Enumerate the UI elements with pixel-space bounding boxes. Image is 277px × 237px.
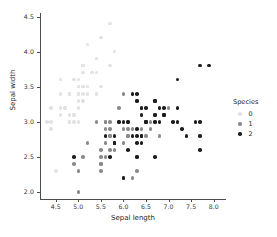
data-point bbox=[158, 134, 162, 138]
data-point bbox=[104, 141, 108, 145]
y-tick-label: 3.0 bbox=[14, 118, 34, 125]
data-point bbox=[131, 134, 135, 138]
data-point bbox=[72, 162, 76, 166]
data-point bbox=[153, 113, 157, 117]
data-point bbox=[113, 134, 117, 138]
data-point bbox=[104, 120, 108, 124]
data-point bbox=[140, 106, 144, 110]
data-point bbox=[158, 120, 162, 124]
data-point bbox=[117, 120, 121, 124]
data-point bbox=[99, 162, 103, 166]
data-point bbox=[77, 120, 81, 124]
data-point bbox=[45, 120, 49, 124]
data-point bbox=[49, 120, 53, 124]
data-point bbox=[198, 148, 202, 152]
data-point bbox=[81, 99, 85, 103]
data-point bbox=[135, 92, 139, 96]
data-point bbox=[135, 99, 139, 103]
data-point bbox=[63, 106, 67, 110]
data-point bbox=[72, 155, 76, 159]
data-point bbox=[54, 169, 58, 173]
data-point bbox=[108, 155, 112, 159]
data-point bbox=[108, 120, 112, 124]
data-point bbox=[162, 113, 166, 117]
y-tick-label: 3.5 bbox=[14, 83, 34, 90]
x-tick-label: 7.0 bbox=[157, 203, 181, 210]
legend-item-label: 2 bbox=[249, 130, 253, 138]
data-point bbox=[140, 127, 144, 131]
data-point bbox=[113, 148, 117, 152]
legend-swatch-icon bbox=[238, 122, 242, 126]
legend-item[interactable]: 0 bbox=[232, 109, 258, 119]
data-point bbox=[126, 148, 130, 152]
data-point bbox=[113, 141, 117, 145]
data-point bbox=[140, 141, 144, 145]
data-point bbox=[198, 134, 202, 138]
legend-item-label: 1 bbox=[249, 120, 253, 128]
data-point bbox=[77, 190, 81, 194]
data-point bbox=[131, 92, 135, 96]
data-point bbox=[104, 155, 108, 159]
data-point bbox=[131, 176, 135, 180]
data-point bbox=[135, 169, 139, 173]
x-tick-label: 7.5 bbox=[179, 203, 203, 210]
data-point bbox=[77, 169, 81, 173]
data-point bbox=[122, 120, 126, 124]
legend-swatch-icon bbox=[238, 132, 242, 136]
plot-points-area bbox=[40, 13, 225, 199]
data-point bbox=[108, 134, 112, 138]
legend-item[interactable]: 1 bbox=[232, 119, 258, 129]
data-point bbox=[86, 92, 90, 96]
x-tick-mark bbox=[169, 199, 170, 202]
y-tick-label: 4.0 bbox=[14, 48, 34, 55]
legend-swatch-icon bbox=[238, 112, 242, 116]
data-point bbox=[198, 120, 202, 124]
data-point bbox=[158, 106, 162, 110]
data-point bbox=[135, 141, 139, 145]
x-tick-mark bbox=[78, 199, 79, 202]
x-tick-label: 5.5 bbox=[89, 203, 113, 210]
data-point bbox=[144, 134, 148, 138]
data-point bbox=[149, 127, 153, 131]
data-point bbox=[72, 113, 76, 117]
data-point bbox=[176, 120, 180, 124]
data-point bbox=[81, 155, 85, 159]
data-point bbox=[149, 120, 153, 124]
scatter-plot-figure: 4.55.05.56.06.57.07.58.0 2.02.53.03.54.0… bbox=[0, 0, 277, 237]
data-point bbox=[77, 99, 81, 103]
x-tick-mark bbox=[123, 199, 124, 202]
data-point bbox=[59, 113, 63, 117]
x-tick-label: 6.0 bbox=[111, 203, 135, 210]
y-axis-label: Sepal width bbox=[9, 50, 17, 130]
data-point bbox=[99, 36, 103, 40]
legend-item-label: 0 bbox=[249, 110, 253, 118]
legend-entries: 012 bbox=[232, 109, 258, 139]
data-point bbox=[135, 134, 139, 138]
data-point bbox=[122, 92, 126, 96]
data-point bbox=[68, 113, 72, 117]
legend-item[interactable]: 2 bbox=[232, 129, 258, 139]
data-point bbox=[135, 155, 139, 159]
x-axis-line bbox=[40, 199, 226, 200]
data-point bbox=[180, 127, 184, 131]
data-point bbox=[162, 106, 166, 110]
x-tick-mark bbox=[214, 199, 215, 202]
x-tick-label: 6.5 bbox=[134, 203, 158, 210]
data-point bbox=[176, 106, 180, 110]
data-point bbox=[99, 148, 103, 152]
data-point bbox=[77, 106, 81, 110]
data-point bbox=[86, 141, 90, 145]
data-point bbox=[122, 141, 126, 145]
x-axis-label: Sepal length bbox=[40, 214, 226, 222]
data-point bbox=[122, 127, 126, 131]
data-point bbox=[171, 120, 175, 124]
data-point bbox=[117, 106, 121, 110]
data-point bbox=[153, 120, 157, 124]
x-tick-mark bbox=[191, 199, 192, 202]
data-point bbox=[95, 120, 99, 124]
data-point bbox=[122, 176, 126, 180]
data-point bbox=[99, 155, 103, 159]
data-point bbox=[72, 120, 76, 124]
x-tick-mark bbox=[101, 199, 102, 202]
data-point bbox=[68, 92, 72, 96]
